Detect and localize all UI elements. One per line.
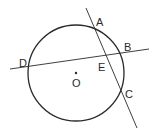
label-d: D bbox=[19, 57, 27, 69]
label-c: C bbox=[125, 88, 133, 100]
line-ac bbox=[86, 8, 137, 128]
geometry-diagram: A B C D E O bbox=[0, 0, 155, 132]
label-o: O bbox=[72, 77, 81, 89]
center-point bbox=[75, 72, 77, 74]
label-a: A bbox=[96, 16, 104, 28]
label-b: B bbox=[124, 41, 131, 53]
label-e: E bbox=[98, 61, 105, 73]
